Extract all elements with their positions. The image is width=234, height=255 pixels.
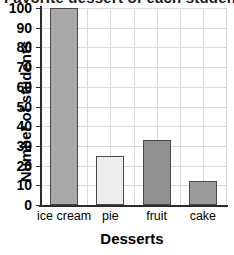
y-axis-tick-label: 30 (0, 139, 32, 153)
y-axis-tick (36, 28, 41, 29)
x-axis-tick-label-cake: cake (174, 209, 232, 223)
y-axis-tick (36, 205, 41, 206)
bar-ice-cream[interactable] (50, 8, 78, 205)
y-axis-tick-label: 100 (0, 1, 32, 15)
x-axis-title-text: Desserts (70, 230, 163, 247)
x-axis-title: Desserts (0, 230, 234, 247)
bar-pie[interactable] (96, 156, 124, 205)
y-axis-tick (36, 67, 41, 68)
y-axis-tick-label: 40 (0, 119, 32, 133)
y-axis-tick-label: 90 (0, 21, 32, 35)
y-axis-tick-label: 50 (0, 100, 32, 114)
bar-chart: Favorite dessert of each student Number … (0, 0, 234, 255)
chart-title-cropped: Favorite dessert of each student (0, 0, 234, 8)
y-axis-tick-label: 20 (0, 159, 32, 173)
y-axis-tick-label: 60 (0, 80, 32, 94)
y-axis-tick-label: 70 (0, 60, 32, 74)
y-axis-tick-label: 80 (0, 40, 32, 54)
y-axis-tick (36, 107, 41, 108)
gridline-vertical (226, 8, 227, 205)
gridline-vertical (87, 8, 88, 205)
y-axis-tick (36, 146, 41, 147)
y-axis-tick-label: 10 (0, 178, 32, 192)
y-axis-tick (36, 166, 41, 167)
gridline-vertical (180, 8, 181, 205)
gridline-vertical (203, 8, 204, 205)
bar-fruit[interactable] (143, 140, 171, 205)
y-axis-tick (36, 126, 41, 127)
x-axis-line (39, 205, 228, 207)
gridline-vertical (134, 8, 135, 205)
y-axis-tick (36, 185, 41, 186)
y-axis-tick (36, 47, 41, 48)
chart-title: Favorite dessert of each student (4, 0, 234, 6)
y-axis-tick-label: 0 (0, 198, 32, 212)
bar-cake[interactable] (189, 181, 217, 205)
y-axis-tick (36, 87, 41, 88)
y-axis-tick (36, 8, 41, 9)
